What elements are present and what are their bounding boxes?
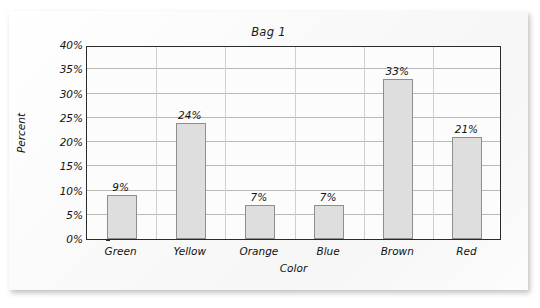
y-axis-tick-15pct: 15% [39, 160, 83, 172]
category-separator-line [295, 47, 296, 239]
y-axis-tick-mark [106, 240, 110, 241]
bar-value-label-blue: 7% [303, 191, 353, 203]
category-separator-line [433, 47, 434, 239]
x-axis-title: Color [86, 262, 501, 274]
screenshot-root: Bag 1 0%5%10%15%20%25%30%35%40% 9%Green2… [0, 0, 540, 308]
plot-area [86, 46, 501, 240]
bar-orange[interactable] [245, 205, 275, 239]
y-axis-tick-20pct: 20% [39, 136, 83, 148]
category-separator-line [225, 47, 226, 239]
category-separator-line [364, 47, 365, 239]
x-axis-tick-orange: Orange [219, 245, 299, 257]
gridline [87, 93, 500, 94]
paper-sheet: Bag 1 0%5%10%15%20%25%30%35%40% 9%Green2… [9, 11, 528, 290]
x-axis-tick-brown: Brown [357, 245, 437, 257]
bar-brown[interactable] [383, 79, 413, 239]
bar-value-label-green: 9% [96, 181, 146, 193]
gridline [87, 141, 500, 142]
x-axis-tick-blue: Blue [288, 245, 368, 257]
bar-yellow[interactable] [176, 123, 206, 239]
bar-value-label-yellow: 24% [165, 109, 215, 121]
y-axis-tick-0pct: 0% [39, 233, 83, 245]
bar-value-label-orange: 7% [234, 191, 284, 203]
y-axis-tick-30pct: 30% [39, 88, 83, 100]
y-axis-tick-35pct: 35% [39, 63, 83, 75]
y-axis-tick-40pct: 40% [39, 39, 83, 51]
y-axis-title: Percent [15, 98, 27, 168]
gridline [87, 214, 500, 215]
y-axis-tick-10pct: 10% [39, 185, 83, 197]
gridline [87, 165, 500, 166]
bar-green[interactable] [107, 195, 137, 239]
bar-value-label-brown: 33% [372, 65, 422, 77]
x-axis-tick-red: Red [426, 245, 506, 257]
gridline [87, 117, 500, 118]
bar-red[interactable] [452, 137, 482, 239]
gridline [87, 190, 500, 191]
chart-title: Bag 1 [9, 25, 528, 39]
y-axis-tick-labels: 0%5%10%15%20%25%30%35%40% [33, 46, 83, 240]
y-axis-tick-5pct: 5% [39, 209, 83, 221]
x-axis-tick-yellow: Yellow [150, 245, 230, 257]
bar-blue[interactable] [314, 205, 344, 239]
y-axis-tick-25pct: 25% [39, 112, 83, 124]
bar-value-label-red: 21% [441, 123, 491, 135]
bar-chart: Bag 1 0%5%10%15%20%25%30%35%40% 9%Green2… [9, 11, 528, 290]
category-separator-line [156, 47, 157, 239]
x-axis-tick-green: Green [81, 245, 161, 257]
gridline [87, 68, 500, 69]
